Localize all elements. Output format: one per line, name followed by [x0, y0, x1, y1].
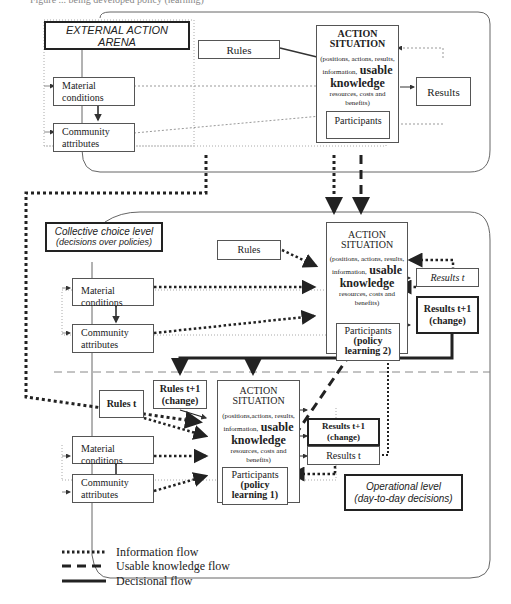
label: Community: [62, 126, 134, 138]
as-usable: usable: [261, 420, 294, 434]
legend-information-flow: Information flow: [116, 545, 198, 559]
collective-rules-box: Rules: [217, 240, 281, 260]
label: (change): [429, 315, 466, 327]
label: Results t+1: [322, 421, 365, 432]
operational-subtitle: (day-to-day decisions): [354, 493, 452, 505]
operational-results-t: Results t: [307, 446, 380, 465]
as-title2: SITUATION: [327, 240, 407, 250]
legend-usable-knowledge-flow: Usable knowledge flow: [116, 559, 230, 573]
label: Community: [81, 477, 153, 489]
external-arena-title: EXTERNAL ACTION ARENA: [44, 21, 190, 50]
operational-rules-t: Rules t: [99, 390, 144, 418]
legend-decisional-flow: Decisional flow: [116, 574, 192, 588]
operational-rules-t1: Rules t+1 (change): [153, 380, 207, 409]
external-rules-box: Rules: [198, 40, 280, 59]
operational-results-t1: Results t+1 (change): [307, 418, 380, 446]
label: Rules t+1: [160, 383, 200, 395]
participants-role2: learning 2): [337, 346, 399, 356]
as-desc4: benefits): [317, 99, 398, 108]
as-desc3: resources, costs and: [218, 447, 299, 456]
operational-material-conditions: Material conditions: [72, 436, 154, 464]
as-desc2: information,: [332, 268, 367, 276]
operational-community-attributes: Community attributes: [72, 474, 154, 503]
as-desc2: information,: [323, 68, 358, 76]
as-desc2: information,: [224, 425, 259, 433]
collective-material-conditions: Material conditions: [72, 278, 154, 306]
external-results: Results: [416, 77, 471, 106]
label: conditions: [62, 92, 134, 104]
external-community-attributes: Community attributes: [53, 123, 135, 152]
participants-role2: learning 1): [223, 490, 287, 500]
as-usable: usable: [369, 263, 402, 277]
as-title2: SITUATION: [218, 396, 299, 406]
collective-action-situation: ACTION SITUATION (positions, actions, re…: [326, 222, 408, 354]
as-desc3: resources, costs and: [327, 290, 407, 299]
external-action-situation: ACTION SITUATION (positions, actions, re…: [316, 25, 399, 143]
label: Results t+1: [424, 303, 472, 315]
operational-action-situation: ACTION SITUATION (positions,actions, res…: [217, 380, 300, 503]
collective-results-t1: Results t+1 (change): [416, 296, 479, 334]
label: Community: [81, 327, 153, 339]
collective-title: Collective choice level: [55, 226, 153, 237]
external-participants: Participants: [326, 111, 390, 139]
collective-participants: Participants (policy learning 2): [336, 323, 400, 361]
as-usable: usable: [360, 63, 393, 77]
as-knowledge: knowledge: [218, 434, 299, 447]
operational-participants: Participants (policy learning 1): [222, 467, 288, 505]
as-desc3: resources, costs and: [317, 90, 398, 99]
as-knowledge: knowledge: [327, 277, 407, 290]
as-title2: SITUATION: [317, 39, 398, 49]
operational-level-title: Operational level (day-to-day decisions): [344, 474, 463, 511]
label: (change): [327, 432, 360, 443]
operational-title: Operational level: [366, 481, 441, 493]
as-knowledge: knowledge: [317, 77, 398, 90]
as-desc4: benefits): [327, 299, 407, 308]
collective-community-attributes: Community attributes: [72, 324, 154, 353]
external-material-conditions: Material conditions: [53, 77, 135, 106]
as-desc4: benefits): [218, 456, 299, 465]
label: Material: [62, 80, 134, 92]
label: attributes: [81, 489, 153, 501]
collective-subtitle: (decisions over policies): [56, 237, 152, 248]
collective-level-title: Collective choice level (decisions over …: [45, 222, 163, 252]
label: attributes: [81, 339, 153, 351]
label: attributes: [62, 138, 134, 150]
label: (change): [162, 395, 199, 407]
collective-results-t: Results t: [416, 268, 479, 287]
